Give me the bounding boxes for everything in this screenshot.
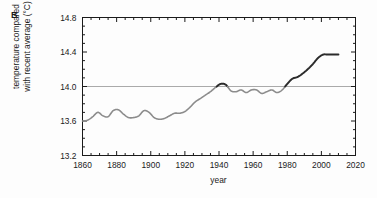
x-tick-label: 1860 [73,160,92,170]
x-tick-label: 1980 [278,160,297,170]
x-tick-label: 1960 [244,160,263,170]
y-tick-label: 13.6 [60,116,77,126]
x-tick-label: 2000 [312,160,331,170]
y-tick-label: 13.2 [60,151,77,161]
series-line-above-reference [285,54,338,86]
y-tick-label: 14.4 [60,47,77,57]
figure-panel-b: B temperature compared with recent avera… [0,0,377,198]
x-tick-label: 1880 [107,160,126,170]
series-line-below-reference [83,87,217,122]
x-tick-label: 1920 [176,160,195,170]
y-tick-label: 14.8 [60,13,77,23]
x-tick-label: 2020 [346,160,365,170]
x-tick-label: 1940 [210,160,229,170]
series-line-below-reference [227,87,285,94]
y-tick-label: 14.0 [60,82,77,92]
chart-canvas: 18601880190019201940196019802000202013.2… [0,0,377,198]
x-tick-label: 1900 [141,160,160,170]
